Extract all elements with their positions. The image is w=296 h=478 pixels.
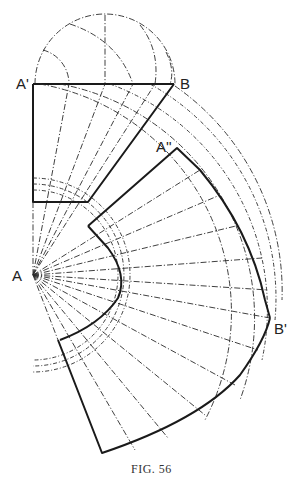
label-a: A [12,267,22,284]
figure-caption: FIG. 56 [131,462,172,476]
label-b-prime: B' [274,320,287,337]
label-a-double-prime: A'' [156,138,172,155]
label-b: B [180,75,190,92]
fig-56-development-diagram: A' B A A'' B' FIG. 56 [0,0,296,478]
label-a-prime: A' [16,75,29,92]
background [0,0,296,478]
